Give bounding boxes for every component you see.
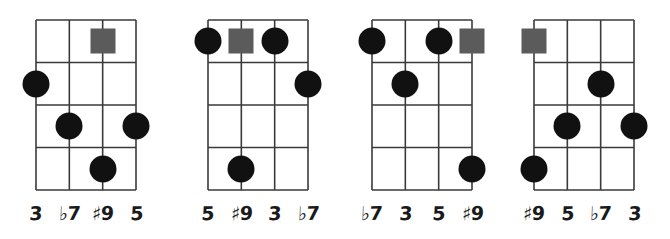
note-marker: [228, 155, 255, 182]
interval-label-row: ♭735♯9: [355, 204, 489, 223]
note-marker: [295, 70, 322, 97]
root-note-marker: [460, 29, 485, 54]
interval-label: ♯9: [455, 204, 489, 224]
note-marker: [521, 155, 548, 182]
interval-label: ♭7: [52, 204, 86, 224]
interval-label: ♭7: [291, 204, 325, 224]
note-marker: [261, 28, 288, 55]
interval-label-row: ♯95♭73: [517, 204, 651, 223]
note-marker: [459, 155, 486, 182]
fretboard-grid: [34, 18, 138, 192]
interval-label-row: 3♭7♯95: [19, 204, 153, 223]
note-marker: [621, 113, 648, 140]
interval-label: ♯9: [224, 204, 258, 224]
interval-label: 5: [550, 204, 584, 224]
note-marker: [392, 70, 419, 97]
interval-label: 5: [422, 204, 456, 224]
note-marker: [56, 113, 83, 140]
interval-label-row: 5♯93♭7: [191, 204, 325, 223]
interval-label: ♭7: [355, 204, 389, 224]
note-marker: [359, 28, 386, 55]
interval-label: ♭7: [584, 204, 618, 224]
interval-label: ♯9: [86, 204, 120, 224]
interval-label: 3: [388, 204, 422, 224]
note-marker: [123, 113, 150, 140]
note-marker: [89, 155, 116, 182]
interval-label: ♯9: [517, 204, 551, 224]
interval-label: 3: [617, 204, 651, 224]
note-marker: [195, 28, 222, 55]
interval-label: 5: [119, 204, 153, 224]
note-marker: [554, 113, 581, 140]
root-note-marker: [90, 29, 115, 54]
fretboard-grid: [206, 18, 310, 192]
fretboard-grid: [532, 18, 636, 192]
note-marker: [425, 28, 452, 55]
root-note-marker: [229, 29, 254, 54]
interval-label: 3: [258, 204, 292, 224]
interval-label: 5: [191, 204, 225, 224]
chord-diagram-board: 3♭7♯955♯93♭7♭735♯9♯95♭73: [0, 0, 670, 239]
note-marker: [23, 70, 50, 97]
interval-label: 3: [19, 204, 53, 224]
root-note-marker: [522, 29, 547, 54]
note-marker: [587, 70, 614, 97]
